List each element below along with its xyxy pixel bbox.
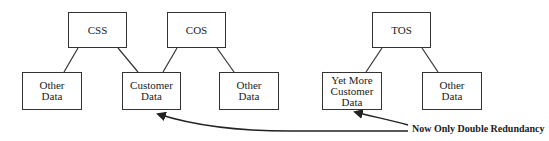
node-label: COS (186, 25, 207, 36)
node-other-data-2: Other Data (219, 72, 279, 110)
node-customer-data: Customer Data (122, 72, 181, 110)
edge-css-other1 (64, 48, 78, 72)
node-label: Other Data (39, 80, 64, 102)
edge-tos-other3 (422, 48, 438, 72)
node-cos: COS (167, 12, 226, 48)
node-label: CSS (88, 25, 108, 36)
edge-css-customer (118, 48, 138, 72)
edge-tos-yetmore (366, 48, 382, 72)
arrow-to-customer-data (158, 114, 408, 131)
node-label: Other Data (236, 80, 261, 102)
node-label: TOS (391, 25, 412, 36)
arrow-to-yet-more-customer-data (355, 112, 408, 125)
node-css: CSS (68, 12, 127, 48)
edge-cos-customer (163, 48, 177, 72)
node-yet-more-customer-data: Yet More Customer Data (322, 72, 382, 110)
node-label: Customer Data (130, 80, 173, 102)
node-tos: TOS (372, 12, 431, 48)
annotation-label: Now Only Double Redundancy (412, 123, 545, 134)
node-other-data-3: Other Data (422, 72, 482, 110)
node-other-data-1: Other Data (22, 72, 82, 110)
node-label: Yet More Customer Data (331, 75, 374, 108)
node-label: Other Data (439, 80, 464, 102)
edge-cos-other2 (217, 48, 234, 72)
